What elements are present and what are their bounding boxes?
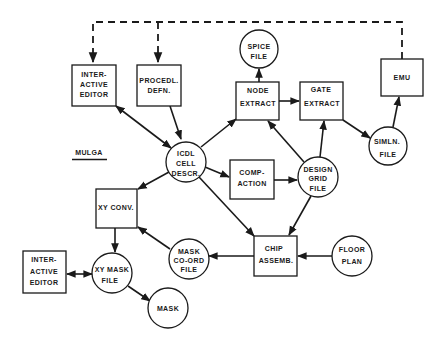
node-xy-conv: XY CONV.: [96, 189, 137, 228]
node-icdl-cell-descr: ICDL CELL DESCR.: [166, 142, 206, 182]
svg-text:DEFN.: DEFN.: [148, 87, 171, 94]
svg-text:FILE: FILE: [102, 277, 119, 284]
svg-text:ICDL: ICDL: [177, 150, 195, 157]
svg-text:DESIGN: DESIGN: [303, 166, 332, 173]
node-mask-coord-file: MASK CO-ORD FILE: [169, 239, 209, 279]
node-simln-file: SIMLN. FILE: [369, 127, 407, 165]
svg-text:EMU: EMU: [394, 74, 411, 81]
svg-text:MULGA: MULGA: [75, 149, 103, 156]
svg-text:GRID: GRID: [308, 175, 327, 182]
svg-text:CO-ORD: CO-ORD: [174, 257, 205, 264]
svg-text:SIMLN.: SIMLN.: [374, 138, 400, 145]
svg-text:PROCEDL.: PROCEDL.: [139, 77, 178, 84]
node-chip-assemb: CHIP ASSEMB.: [254, 236, 297, 276]
svg-text:ACTIVE: ACTIVE: [30, 268, 58, 275]
svg-text:FILE: FILE: [251, 53, 268, 60]
svg-text:FLOOR: FLOOR: [339, 246, 366, 253]
node-compaction: COMP- ACTION: [230, 160, 274, 199]
node-gate-extract: GATE EXTRACT: [300, 82, 343, 120]
svg-text:INTER-: INTER-: [31, 256, 57, 263]
svg-text:NODE: NODE: [247, 87, 269, 94]
svg-text:EDITOR: EDITOR: [30, 279, 59, 286]
node-interactive-editor-bottom: INTER- ACTIVE EDITOR: [23, 251, 66, 293]
svg-text:CELL: CELL: [176, 160, 196, 167]
flow-diagram: MULGA INTER- ACTIVE EDITOR PROCEDL. DEFN…: [0, 0, 445, 352]
svg-text:FILE: FILE: [310, 185, 327, 192]
svg-text:ACTIVE: ACTIVE: [80, 81, 108, 88]
node-design-grid-file: DESIGN GRID FILE: [298, 157, 338, 197]
svg-text:EDITOR: EDITOR: [80, 91, 109, 98]
svg-text:XY MASK: XY MASK: [95, 266, 130, 273]
node-spice-file: SPICE FILE: [240, 30, 278, 68]
svg-text:EXTRACT: EXTRACT: [304, 100, 340, 107]
svg-text:FILE: FILE: [380, 151, 397, 158]
node-interactive-editor-top: INTER- ACTIVE EDITOR: [72, 65, 116, 106]
svg-text:CHIP: CHIP: [265, 245, 283, 252]
svg-text:ASSEMB.: ASSEMB.: [259, 257, 294, 264]
svg-text:PLAN: PLAN: [342, 258, 363, 265]
svg-text:INTER-: INTER-: [81, 71, 107, 78]
svg-text:SPICE: SPICE: [247, 43, 270, 50]
node-mask: MASK: [148, 288, 188, 328]
svg-text:MASK: MASK: [157, 305, 179, 312]
svg-text:EXTRACT: EXTRACT: [240, 100, 276, 107]
svg-text:XY CONV.: XY CONV.: [98, 204, 134, 211]
node-floor-plan: FLOOR PLAN: [332, 236, 372, 276]
node-procedl-defn: PROCEDL. DEFN.: [137, 65, 181, 106]
svg-text:COMP-: COMP-: [239, 169, 265, 176]
svg-text:ACTION: ACTION: [237, 180, 266, 187]
node-node-extract: NODE EXTRACT: [236, 82, 279, 120]
node-xy-mask-file: XY MASK FILE: [92, 253, 132, 293]
svg-text:GATE: GATE: [311, 86, 332, 93]
mulga-label: MULGA: [72, 149, 107, 160]
svg-text:MASK: MASK: [178, 248, 200, 255]
svg-text:FILE: FILE: [181, 266, 198, 273]
node-emu: EMU: [381, 59, 423, 96]
svg-text:DESCR.: DESCR.: [172, 170, 201, 177]
